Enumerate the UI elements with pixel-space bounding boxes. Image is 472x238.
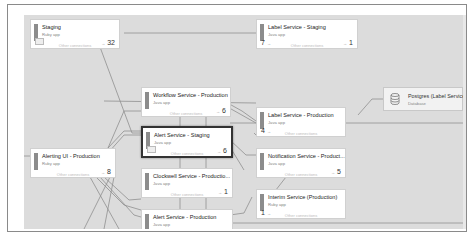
- node-subtitle: Java app: [153, 222, 170, 227]
- node-title: Clockwell Service - Productio...: [153, 173, 230, 179]
- node-title: Interim Service (Production): [268, 194, 337, 200]
- node-subtitle: Java app: [268, 120, 285, 125]
- outbound-count[interactable]: →1: [343, 39, 353, 46]
- node-title: Workflow Service - Production: [153, 92, 228, 98]
- status-bar: [34, 153, 38, 170]
- service-node-alert-production[interactable]: Alert Service - Production Java app: [141, 209, 233, 229]
- node-title: Alert Service - Production: [153, 214, 216, 220]
- node-subtitle: Java app: [154, 140, 171, 145]
- service-node-alert-staging[interactable]: Alert Service - Staging Java app Other c…: [141, 126, 233, 158]
- database-node-postgres[interactable]: Postgres (Label Service... Database: [383, 87, 463, 111]
- outbound-count[interactable]: →8: [101, 168, 111, 175]
- service-map-frame: Staging Ruby app Other connections →32 L…: [7, 4, 467, 232]
- inbound-count[interactable]: 7→: [261, 39, 271, 46]
- node-subtitle: Ruby app: [42, 32, 60, 37]
- node-title: Label Service - Production: [268, 112, 334, 118]
- queue-icon: [35, 38, 44, 45]
- service-node-clockwell-production[interactable]: Clockwell Service - Productio... Java ap…: [141, 168, 233, 198]
- outbound-count[interactable]: →6: [217, 147, 227, 154]
- queue-icon: [147, 146, 156, 153]
- inbound-count[interactable]: 4→: [261, 127, 271, 134]
- node-title: Label Service - Staging: [268, 24, 326, 30]
- service-node-interim-production[interactable]: Interim Service (Production) Ruby app Ot…: [256, 189, 346, 219]
- outbound-count[interactable]: →5: [331, 168, 341, 175]
- node-subtitle: Java app: [153, 181, 170, 186]
- outbound-count[interactable]: →1: [218, 188, 228, 195]
- inbound-count[interactable]: 1→: [261, 209, 271, 216]
- status-bar: [260, 153, 264, 170]
- node-subtitle: Java app: [153, 100, 170, 105]
- status-bar: [145, 214, 149, 229]
- service-map-canvas[interactable]: Staging Ruby app Other connections →32 L…: [24, 15, 466, 229]
- service-node-label-production[interactable]: Label Service - Production Java app Othe…: [256, 107, 346, 137]
- db-title: Postgres (Label Service...: [408, 93, 466, 99]
- node-subtitle: Ruby app: [268, 202, 286, 207]
- service-node-staging[interactable]: Staging Ruby app Other connections →32: [30, 19, 120, 49]
- status-bar: [145, 92, 149, 109]
- other-connections-label: Other connections: [257, 43, 357, 48]
- db-subtitle: Database: [408, 101, 426, 106]
- node-subtitle: Java app: [268, 161, 285, 166]
- outbound-count[interactable]: →32: [101, 39, 115, 46]
- node-subtitle: Java app: [268, 32, 285, 37]
- database-icon: [390, 93, 400, 105]
- node-title: Alerting UI - Production: [42, 153, 100, 159]
- canvas-scrollbar[interactable]: [463, 15, 466, 229]
- node-title: Staging: [42, 24, 61, 30]
- service-node-alerting-ui-production[interactable]: Alerting UI - Production Ruby app Other …: [30, 148, 116, 178]
- service-node-label-staging[interactable]: Label Service - Staging Java app Other c…: [256, 19, 358, 49]
- node-subtitle: Ruby app: [42, 161, 60, 166]
- node-title: Alert Service - Staging: [154, 132, 210, 138]
- outbound-count[interactable]: →6: [216, 107, 226, 114]
- status-bar: [145, 173, 149, 190]
- node-title: Notification Service - Product...: [268, 153, 345, 159]
- service-node-workflow-production[interactable]: Workflow Service - Production Java app O…: [141, 87, 231, 117]
- service-node-notification-production[interactable]: Notification Service - Product... Java a…: [256, 148, 346, 178]
